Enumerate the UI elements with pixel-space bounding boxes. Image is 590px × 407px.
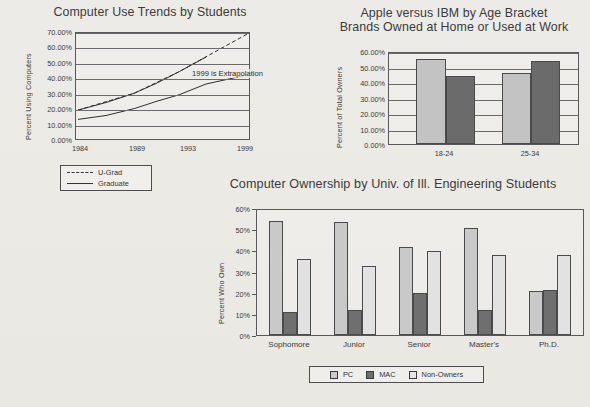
bar-mac-phd [543,290,557,336]
chart-computer-ownership: Computer Ownership by Univ. of Ill. Engi… [196,176,590,407]
pc-swatch-icon [330,371,338,379]
chart1-legend-label-ugrad: U-Grad [98,168,122,177]
chart3-ytick-60: 60% [235,205,250,214]
chart3-legend: PC MAC Non-Owners [309,366,484,383]
chart3-legend-item-nonowners: Non-Owners [409,370,463,379]
bar-apple-18-24 [416,59,446,144]
chart3-legend-item-mac: MAC [366,370,395,379]
nonowners-swatch-icon [409,371,417,379]
chart1-title: Computer Use Trends by Students [0,6,300,20]
chart3-legend-label-nonowners: Non-Owners [422,370,463,379]
chart1-xlabel-1989: 1989 [129,144,145,153]
chart1-ytick-30: 30.00% [47,89,72,98]
chart2-plot-area [388,52,579,145]
bar-pc-junior [334,222,348,335]
chart2-ytick-50: 50.00% [360,63,385,72]
dashed-line-icon [67,172,93,173]
chart1-ytick-40: 40.00% [47,74,72,83]
chart1-xlabel-1984: 1984 [72,144,88,153]
chart3-title: Computer Ownership by Univ. of Ill. Engi… [196,178,590,192]
bar-nonowners-senior [427,251,441,335]
chart3-legend-label-pc: PC [343,370,353,379]
chart2-ytick-10: 10.00% [360,125,385,134]
chart3-xlabel-masters: Master's [469,340,499,349]
chart2-subtitle: Brands Owned at Home or Used at Work [318,21,590,35]
chart2-xlabel-18-24: 18-24 [435,149,454,158]
chart1-plot-area [75,32,250,140]
chart1-legend-label-graduate: Graduate [98,179,129,188]
chart1-ytick-60: 60.00% [47,43,72,52]
chart3-xlabel-junior: Junior [343,340,365,349]
chart1-ytick-20: 20.00% [47,105,72,114]
bar-pc-phd [529,291,543,336]
chart2-ytick-20: 20.00% [360,110,385,119]
chart2-title: Apple versus IBM by Age Bracket [318,7,590,21]
chart2-ytick-60: 60.00% [360,48,385,57]
chart2-xlabel-25-34: 25-34 [521,149,540,158]
chart1-annotation: 1999 is Extrapolation [191,69,264,78]
chart1-xlabel-1999: 1999 [237,144,253,153]
chart1-ytick-10: 10.00% [47,120,72,129]
chart3-legend-item-pc: PC [330,370,353,379]
chart1-x-labels: 1984 1989 1993 1999 [75,144,250,156]
solid-line-icon [67,183,93,184]
chart3-ytick-40: 40% [235,247,250,256]
chart3-legend-label-mac: MAC [379,370,395,379]
chart1-ytick-50: 50.00% [47,58,72,67]
bar-apple-25-34 [502,73,531,144]
chart3-x-labels: Sophomore Junior Senior Master's Ph.D. [256,340,584,354]
chart2-y-ticks: 60.00% 50.00% 40.00% 30.00% 20.00% 10.00… [340,52,385,145]
chart3-xlabel-phd: Ph.D. [539,340,559,349]
chart3-ytick-50: 50% [235,226,250,235]
bar-ibm-25-34 [531,61,560,144]
chart2-ytick-40: 40.00% [360,79,385,88]
chart3-y-ticks: 60% 50% 40% 30% 20% 10% 0% [222,209,250,336]
bar-nonowners-masters [492,255,506,335]
chart3-ytick-30: 30% [235,268,250,277]
bar-nonowners-sophomore [297,259,311,335]
chart3-xlabel-senior: Senior [407,340,430,349]
bar-pc-senior [399,247,413,335]
chart1-legend-item-graduate: Graduate [67,179,129,188]
bar-mac-senior [413,293,427,335]
chart1-xlabel-1993: 1993 [180,144,196,153]
chart3-xlabel-sophomore: Sophomore [268,340,309,349]
chart-computer-use-trends: Computer Use Trends by Students Percent … [0,4,300,199]
chart2-x-labels: 18-24 25-34 [388,149,579,161]
chart3-plot-area [256,209,584,336]
chart3-ytick-0: 0% [239,332,250,341]
bar-mac-junior [348,310,362,335]
bar-pc-sophomore [269,221,283,335]
bar-mac-sophomore [283,312,297,335]
mac-swatch-icon [366,371,374,379]
bar-nonowners-phd [557,255,571,335]
bar-nonowners-junior [362,266,376,335]
chart1-ytick-70: 70.00% [47,28,72,37]
chart2-ytick-0: 0.00% [364,141,385,150]
chart-apple-versus-ibm: Apple versus IBM by Age Bracket Brands O… [318,4,590,176]
chart1-legend: U-Grad Graduate [60,165,152,191]
bar-ibm-18-24 [446,76,475,144]
chart3-ytick-10: 10% [235,310,250,319]
chart3-ytick-20: 20% [235,289,250,298]
chart2-ytick-30: 30.00% [360,94,385,103]
chart1-y-ticks: 70.00% 60.00% 50.00% 40.00% 30.00% 20.00… [30,32,72,140]
chart1-legend-item-ugrad: U-Grad [67,168,122,177]
bar-pc-masters [464,228,478,335]
chart1-ytick-0: 0.00% [51,136,72,145]
bar-mac-masters [478,310,492,335]
